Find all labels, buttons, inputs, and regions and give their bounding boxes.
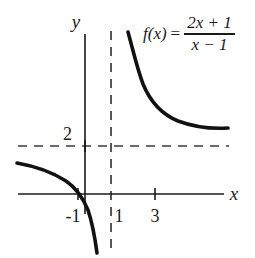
formula-function-name: f(x) [143,24,167,44]
y-tick-label-2: 2 [63,124,72,144]
formula-numerator: 2x + 1 [184,14,235,33]
function-graph-figure: y x 2 -1 1 3 f(x) = 2x + 1 x − 1 [0,0,255,258]
function-formula: f(x) = 2x + 1 x − 1 [143,14,235,54]
x-axis-label: x [229,183,239,204]
x-tick-label-minus-1: -1 [66,206,81,226]
formula-fraction: 2x + 1 x − 1 [184,14,235,54]
formula-equals-sign: = [171,24,181,44]
x-tick-label-3: 3 [151,206,160,226]
formula-denominator: x − 1 [188,35,230,54]
x-tick-label-1: 1 [115,206,124,226]
y-axis-label: y [70,11,81,32]
